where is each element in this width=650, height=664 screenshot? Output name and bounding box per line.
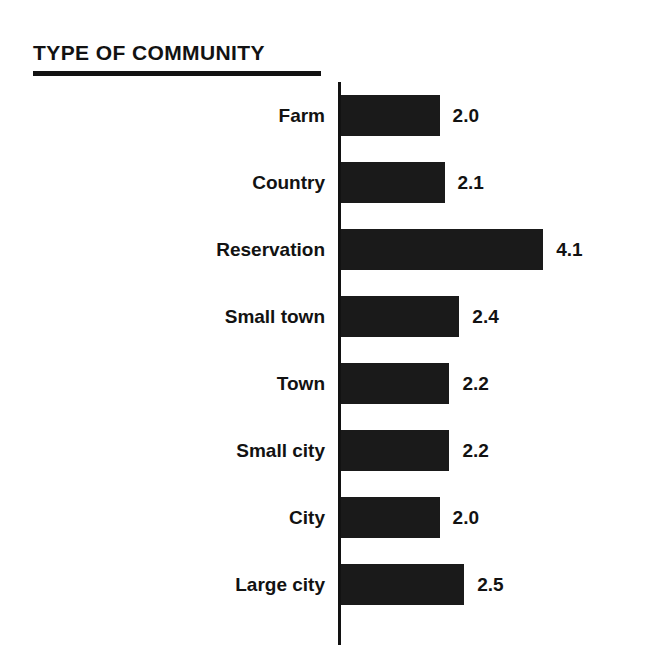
bar-category-label: Town xyxy=(277,363,325,404)
bar xyxy=(341,564,464,605)
bar xyxy=(341,497,440,538)
bar-category-label: Small city xyxy=(236,430,325,471)
bar-row: Reservation4.1 xyxy=(0,229,650,270)
bar-value-label: 2.0 xyxy=(453,497,479,538)
bar-category-label: Small town xyxy=(225,296,325,337)
bar-category-label: Reservation xyxy=(216,229,325,270)
bar-value-label: 2.2 xyxy=(462,430,488,471)
chart-page: TYPE OF COMMUNITY Farm2.0Country2.1Reser… xyxy=(0,0,650,664)
bar-value-label: 4.1 xyxy=(556,229,582,270)
bar-category-label: Large city xyxy=(235,564,325,605)
bar-category-label: Farm xyxy=(279,95,325,136)
bar-value-label: 2.5 xyxy=(477,564,503,605)
bar-row: Large city2.5 xyxy=(0,564,650,605)
bar xyxy=(341,162,445,203)
bar xyxy=(341,296,459,337)
bar-row: Town2.2 xyxy=(0,363,650,404)
bar-row: City2.0 xyxy=(0,497,650,538)
bar-row: Farm2.0 xyxy=(0,95,650,136)
bar-value-label: 2.4 xyxy=(472,296,498,337)
bar-value-label: 2.0 xyxy=(453,95,479,136)
bar xyxy=(341,229,543,270)
bar xyxy=(341,430,449,471)
bar-value-label: 2.1 xyxy=(458,162,484,203)
bar-value-label: 2.2 xyxy=(462,363,488,404)
bar-category-label: City xyxy=(289,497,325,538)
bar-row: Small city2.2 xyxy=(0,430,650,471)
bar-category-label: Country xyxy=(252,162,325,203)
bar-row: Country2.1 xyxy=(0,162,650,203)
bar-chart-plot-area: Farm2.0Country2.1Reservation4.1Small tow… xyxy=(0,0,650,664)
bar xyxy=(341,363,449,404)
bar xyxy=(341,95,440,136)
bar-row: Small town2.4 xyxy=(0,296,650,337)
